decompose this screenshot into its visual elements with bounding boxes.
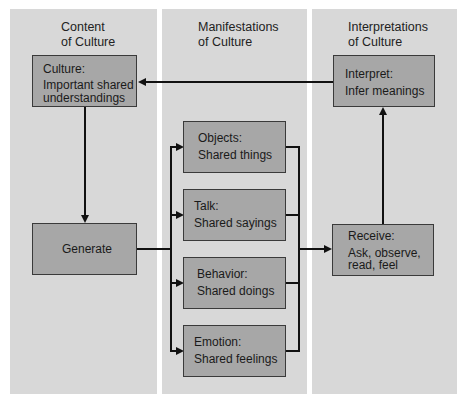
left-splitter-line <box>170 146 172 352</box>
title-line-1: Content <box>61 20 115 35</box>
box-text: understandings <box>43 91 125 106</box>
title-line-2: of Culture <box>61 35 115 50</box>
arrow-down-icon <box>81 215 89 223</box>
culture-box: Culture: Important shared understandings <box>32 55 137 107</box>
box-label: Emotion: <box>194 335 241 350</box>
box-text: Shared sayings <box>194 216 277 231</box>
title-line-1: Interpretations <box>348 20 428 35</box>
interpret-box: Interpret: Infer meanings <box>333 55 435 107</box>
interpret-to-culture-line <box>145 81 333 83</box>
box-text: read, feel <box>348 258 398 273</box>
box-text: Shared doings <box>197 284 274 299</box>
title-line-1: Manifestations <box>198 20 279 35</box>
box-text: Shared things <box>198 148 272 163</box>
generate-box: Generate <box>32 223 137 275</box>
title-line-2: of Culture <box>348 35 428 50</box>
interpretations-column-title: Interpretations of Culture <box>348 20 428 50</box>
arrow-left-icon <box>138 78 146 86</box>
behavior-box: Behavior: Shared doings <box>183 257 286 309</box>
receive-box: Receive: Ask, observe, read, feel <box>332 224 434 276</box>
arrow-up-icon <box>379 107 387 115</box>
talk-box: Talk: Shared sayings <box>183 189 286 241</box>
box-label: Generate <box>62 242 112 257</box>
objects-box: Objects: Shared things <box>183 121 286 173</box>
box-label: Interpret: <box>345 67 393 82</box>
culture-to-generate-line <box>84 107 86 215</box>
content-column-title: Content of Culture <box>61 20 115 50</box>
emotion-box: Emotion: Shared feelings <box>183 325 286 377</box>
generate-out-line <box>137 248 172 250</box>
box-label: Receive: <box>348 229 395 244</box>
box-label: Talk: <box>194 199 219 214</box>
box-label: Behavior: <box>197 267 248 282</box>
box-text: Infer meanings <box>345 84 424 99</box>
receive-to-interpret-line <box>382 115 384 224</box>
box-text: Shared feelings <box>194 352 277 367</box>
box-label: Objects: <box>198 131 242 146</box>
merge-to-receive-line <box>298 248 324 250</box>
box-label: Culture: <box>43 62 85 77</box>
manifestations-column-title: Manifestations of Culture <box>198 20 279 50</box>
arrow-right-icon <box>324 245 332 253</box>
title-line-2: of Culture <box>198 35 279 50</box>
